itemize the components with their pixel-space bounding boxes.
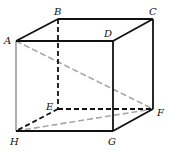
vertex-label-d: D: [103, 28, 112, 39]
edge-cd: [113, 19, 153, 41]
edge-ab: [16, 19, 58, 41]
diagonal-lines: [16, 41, 153, 131]
vertex-label-e: E: [45, 101, 54, 112]
vertex-label-c: C: [149, 6, 157, 17]
vertex-label-a: A: [3, 35, 11, 46]
vertex-label-g: G: [108, 136, 116, 147]
cube-diagram: A B C D E F G H: [0, 0, 169, 151]
diagonal-af: [16, 41, 153, 109]
vertex-label-h: H: [9, 136, 19, 147]
vertex-label-b: B: [53, 6, 61, 17]
vertex-label-f: F: [156, 107, 165, 118]
cube-svg: A B C D E F G H: [0, 0, 169, 151]
